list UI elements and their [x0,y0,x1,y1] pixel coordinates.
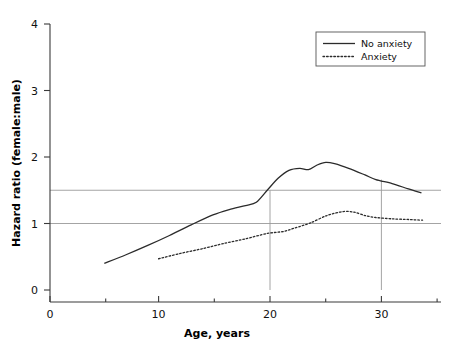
reference-lines-vertical [270,180,381,290]
data-series [104,162,422,263]
legend-label-no-anxiety: No anxiety [361,38,413,49]
series-line-anxiety [159,211,423,258]
legend-label-anxiety: Anxiety [361,51,397,62]
chart-figure: 4 3 2 1 0 Hazard ratio (female:male) 0 1… [0,0,457,349]
hazard-ratio-line-chart: 4 3 2 1 0 Hazard ratio (female:male) 0 1… [0,0,457,349]
x-tick-label-20: 20 [263,308,277,321]
y-axis: 4 3 2 1 0 Hazard ratio (female:male) [10,18,50,302]
x-axis-title: Age, years [184,327,250,340]
legend: No anxiety Anxiety [316,32,425,66]
series-line-no-anxiety [104,162,421,263]
x-tick-label-10: 10 [152,308,166,321]
y-tick-label-1: 1 [31,218,38,231]
x-tick-label-0: 0 [47,308,54,321]
y-tick-label-3: 3 [31,85,38,98]
y-tick-label-2: 2 [31,151,38,164]
y-tick-label-0: 0 [31,284,38,297]
x-axis: 0 10 20 30 Age, years [47,296,442,340]
y-tick-label-4: 4 [31,18,38,31]
x-tick-label-30: 30 [374,308,388,321]
y-axis-title: Hazard ratio (female:male) [10,79,23,247]
